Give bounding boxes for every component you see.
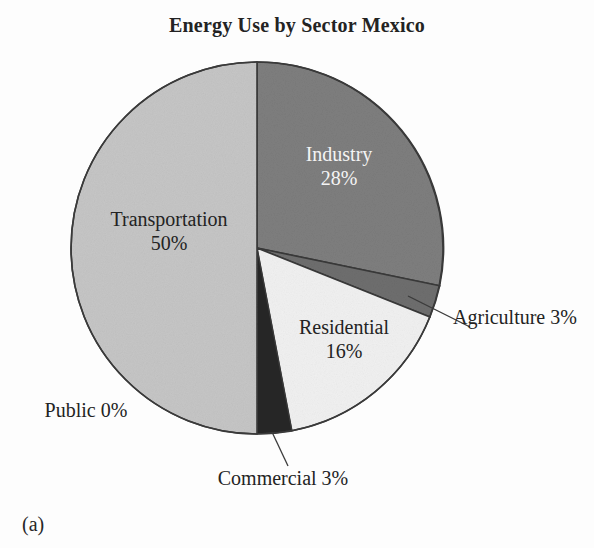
slice-label-commercial-value: 3% xyxy=(322,467,349,489)
figure-caption: (a) xyxy=(22,513,44,536)
figure-page: Energy Use by Sector Mexico xyxy=(0,0,594,548)
slice-label-public: Public 0% xyxy=(18,398,154,422)
slice-label-agriculture-name: Agriculture xyxy=(453,306,545,328)
pie-chart: Industry 28% Transportation 50% Resident… xyxy=(0,0,594,548)
pie-slice-transportation[interactable] xyxy=(71,62,257,434)
pie-slice-industry[interactable] xyxy=(257,62,444,286)
slice-label-commercial-name: Commercial xyxy=(218,467,317,489)
leader-line-commercial xyxy=(272,432,288,466)
slice-label-public-name: Public xyxy=(45,399,96,421)
slice-label-agriculture-value: 3% xyxy=(550,306,577,328)
slice-label-agriculture: Agriculture 3% xyxy=(436,305,594,329)
slice-label-public-value: 0% xyxy=(101,399,128,421)
slice-label-commercial: Commercial 3% xyxy=(198,466,368,490)
